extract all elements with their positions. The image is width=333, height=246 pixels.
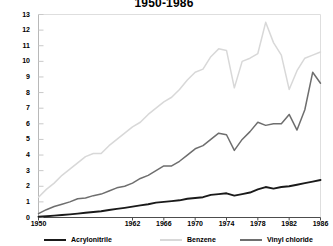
y-axis-tick-label: 7 <box>12 104 30 112</box>
tick-marks <box>39 15 321 221</box>
y-axis-tick-label: 9 <box>12 73 30 81</box>
y-axis-tick-label: 6 <box>12 120 30 128</box>
y-axis-tick-label: 5 <box>12 135 30 143</box>
y-axis-tick-label: 10 <box>12 57 30 65</box>
x-axis-tick-label: 1970 <box>178 220 212 228</box>
chart-legend: AcrylonitrileBenzeneVinyl chloride <box>0 234 328 246</box>
y-axis-tick-label: 4 <box>12 151 30 159</box>
y-axis-tick-label: 13 <box>12 11 30 19</box>
legend-item[interactable]: Benzene <box>160 234 216 246</box>
series-lines <box>39 22 321 216</box>
legend-swatch <box>44 239 66 241</box>
x-axis-tick-label: 1962 <box>116 220 150 228</box>
legend-label: Benzene <box>187 236 216 244</box>
x-axis-tick-label: 1966 <box>147 220 181 228</box>
y-axis-tick-label: 8 <box>12 89 30 97</box>
y-axis-tick-label: 3 <box>12 167 30 175</box>
legend-swatch <box>240 239 262 241</box>
y-axis-tick-label: 2 <box>12 182 30 190</box>
y-axis-tick-label: 1 <box>12 198 30 206</box>
x-axis-tick-label: 1978 <box>241 220 275 228</box>
legend-label: Acrylonitrile <box>71 236 112 244</box>
x-axis-tick-label: 1982 <box>272 220 306 228</box>
y-axis-tick-label: 12 <box>12 26 30 34</box>
legend-label: Vinyl chloride <box>267 236 313 244</box>
legend-item[interactable]: Acrylonitrile <box>44 234 112 246</box>
x-axis-tick-label: 1950 <box>22 220 56 228</box>
x-axis-tick-label: 1986 <box>304 220 333 228</box>
y-axis-tick-label: 11 <box>12 42 30 50</box>
legend-swatch <box>160 239 182 241</box>
legend-item[interactable]: Vinyl chloride <box>240 234 313 246</box>
x-axis-tick-label: 1974 <box>210 220 244 228</box>
